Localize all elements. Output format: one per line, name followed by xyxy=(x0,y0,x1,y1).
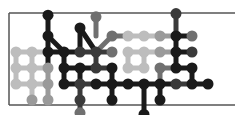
dot xyxy=(187,63,198,74)
dot xyxy=(107,63,118,74)
dot xyxy=(107,79,118,90)
dot xyxy=(171,63,182,74)
dot xyxy=(155,95,166,106)
dot xyxy=(155,47,166,58)
dot xyxy=(11,63,22,74)
dot xyxy=(75,47,86,58)
dot xyxy=(75,63,86,74)
dot xyxy=(11,47,22,58)
dot xyxy=(107,31,118,42)
dot-pattern-graphic xyxy=(0,0,235,115)
dot xyxy=(171,8,182,19)
dot xyxy=(171,79,182,90)
dot xyxy=(107,47,118,58)
dot xyxy=(43,79,54,90)
dot xyxy=(27,63,38,74)
frame xyxy=(9,13,235,105)
dot xyxy=(123,47,134,58)
dot xyxy=(139,31,150,42)
dot xyxy=(75,95,86,106)
dot xyxy=(187,31,198,42)
dot xyxy=(91,63,102,74)
dot xyxy=(43,10,54,21)
dot xyxy=(75,79,86,90)
dot xyxy=(75,23,86,34)
dot xyxy=(139,109,150,115)
dot xyxy=(91,47,102,58)
dot xyxy=(43,31,54,42)
dot xyxy=(139,63,150,74)
dot xyxy=(91,11,102,22)
dot xyxy=(11,79,22,90)
dot xyxy=(43,63,54,74)
dot xyxy=(155,63,166,74)
dot xyxy=(59,47,70,58)
dot xyxy=(123,79,134,90)
dot xyxy=(203,79,214,90)
dot xyxy=(43,47,54,58)
dot xyxy=(155,79,166,90)
dot xyxy=(155,31,166,42)
dot xyxy=(123,63,134,74)
dot xyxy=(43,95,54,106)
dot xyxy=(27,95,38,106)
dot xyxy=(27,47,38,58)
dot xyxy=(139,47,150,58)
dot xyxy=(59,79,70,90)
dot xyxy=(59,63,70,74)
dot xyxy=(123,31,134,42)
dot xyxy=(91,79,102,90)
dot xyxy=(139,79,150,90)
dot xyxy=(171,31,182,42)
dot xyxy=(75,107,86,115)
dot xyxy=(171,47,182,58)
dot xyxy=(187,79,198,90)
dot xyxy=(187,47,198,58)
dots xyxy=(11,8,214,115)
dot xyxy=(27,79,38,90)
dot xyxy=(107,95,118,106)
